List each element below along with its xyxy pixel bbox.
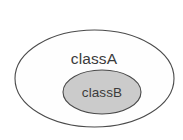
inner-ellipse-label: classB xyxy=(82,85,122,100)
outer-ellipse-label: classA xyxy=(71,50,118,67)
class-containment-diagram: classA classB xyxy=(0,0,183,140)
diagram-canvas: classA classB xyxy=(0,0,183,140)
